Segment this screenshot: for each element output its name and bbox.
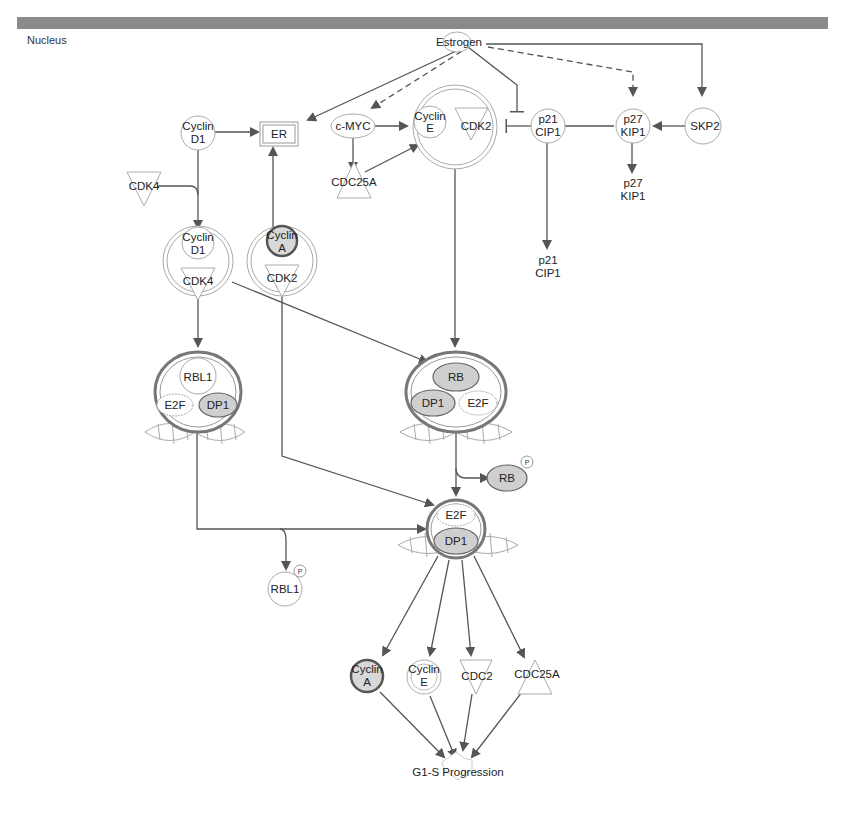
node-skp2[interactable]: SKP2	[685, 108, 721, 144]
node-cyclin-a-cdk2-complex[interactable]: Cyclin A CDK2	[247, 226, 317, 297]
svg-text:E2F: E2F	[445, 509, 466, 521]
svg-text:RBL1: RBL1	[184, 371, 213, 383]
edge-cyclinE-g1s	[430, 696, 455, 757]
svg-text:Cyclin: Cyclin	[408, 663, 439, 675]
node-c-myc[interactable]: c-MYC	[331, 114, 375, 138]
pathway-diagram: Estrogen Cyclin D1 ER c-MYC Cyclin E CDK…	[0, 0, 841, 816]
node-rb-dp1-e2f-complex[interactable]: RB DP1 E2F	[400, 352, 512, 444]
edge-to-rbl1p	[280, 529, 286, 569]
edge-cdc25a-g1s	[472, 692, 522, 757]
svg-text:p21: p21	[538, 254, 557, 266]
svg-text:RB: RB	[499, 472, 515, 484]
svg-text:DP1: DP1	[422, 397, 444, 409]
svg-text:Estrogen: Estrogen	[436, 36, 482, 48]
node-cdk4[interactable]: CDK4	[127, 172, 161, 206]
edge-e2f-cdc25a	[474, 556, 524, 657]
node-g1s-progression[interactable]: G1-S Progression	[412, 752, 503, 780]
svg-text:Cyclin: Cyclin	[182, 120, 213, 132]
svg-text:DP1: DP1	[445, 535, 467, 547]
svg-text:G1-S Progression: G1-S Progression	[412, 766, 503, 778]
edge-cd1cdk4-rbcomplex	[232, 282, 427, 362]
node-rb-phospho[interactable]: RB P	[487, 456, 533, 491]
svg-text:CIP1: CIP1	[535, 126, 561, 138]
edge-rbl1complex-e2fdp1	[197, 432, 425, 529]
node-cyclin-e-cdk2-complex[interactable]: Cyclin E CDK2	[413, 85, 497, 169]
svg-text:p27: p27	[623, 113, 642, 125]
node-p21-cip1-b[interactable]: p21 CIP1	[535, 254, 561, 279]
edge-cdk4-complex	[157, 186, 198, 195]
svg-text:p21: p21	[538, 113, 557, 125]
node-rbl1-phospho[interactable]: RBL1 P	[268, 565, 306, 606]
svg-text:SKP2: SKP2	[690, 120, 719, 132]
node-cdc25a[interactable]: CDC25A	[331, 162, 377, 198]
edge-cdc2-g1s	[463, 694, 472, 750]
cyclin-d1-line2: D1	[191, 244, 206, 256]
svg-text:KIP1: KIP1	[621, 190, 646, 202]
svg-text:CDK2: CDK2	[461, 120, 492, 132]
svg-text:ER: ER	[271, 128, 287, 140]
edge-e2f-cyclinA	[383, 556, 438, 655]
svg-text:Cyclin: Cyclin	[351, 663, 382, 675]
svg-text:E: E	[426, 122, 434, 134]
node-p21-cip1[interactable]: p21 CIP1	[531, 109, 565, 143]
node-estrogen[interactable]: Estrogen	[436, 32, 482, 52]
node-cdc25a-b[interactable]: CDC25A	[514, 660, 560, 694]
node-er[interactable]: ER	[260, 122, 298, 146]
svg-text:A: A	[278, 242, 286, 254]
phospho-badge: P	[525, 459, 530, 466]
node-cyclin-d1[interactable]: Cyclin D1	[181, 116, 215, 150]
node-cdc2[interactable]: CDC2	[460, 660, 493, 694]
svg-text:RBL1: RBL1	[271, 583, 300, 595]
node-p27-kip1-b[interactable]: p27 KIP1	[621, 177, 646, 202]
edge-cdc25a-cyclinE	[365, 145, 418, 172]
svg-text:CDC2: CDC2	[461, 670, 492, 682]
svg-text:E: E	[420, 676, 428, 688]
svg-text:DP1: DP1	[207, 399, 229, 411]
svg-text:CDK4: CDK4	[129, 180, 160, 192]
svg-text:CDK2: CDK2	[267, 272, 298, 284]
svg-text:Cyclin: Cyclin	[266, 229, 297, 241]
phospho-badge: P	[298, 568, 303, 575]
svg-text:E2F: E2F	[467, 397, 488, 409]
svg-text:RB: RB	[448, 371, 464, 383]
node-rbl1-e2f-dp1-complex[interactable]: RBL1 E2F DP1	[145, 352, 245, 444]
node-p27-kip1[interactable]: p27 KIP1	[616, 109, 650, 143]
svg-text:D1: D1	[191, 133, 206, 145]
edge-cyclinA-g1s	[380, 692, 444, 757]
node-cyclin-e-b[interactable]: Cyclin E	[407, 660, 441, 694]
svg-text:CDC25A: CDC25A	[331, 176, 377, 188]
svg-text:c-MYC: c-MYC	[335, 120, 370, 132]
svg-text:KIP1: KIP1	[621, 126, 646, 138]
svg-text:p27: p27	[623, 177, 642, 189]
svg-text:A: A	[363, 676, 371, 688]
node-cyclin-a-b[interactable]: Cyclin A	[351, 660, 383, 692]
node-cyclin-d1-cdk4-complex[interactable]: Cyclin CDK4 D1 CDK4	[163, 226, 233, 300]
edge-to-rbp	[456, 468, 488, 478]
edge-estrogen-p27	[488, 47, 633, 95]
svg-text:CDK4: CDK4	[183, 275, 214, 287]
edge-e2f-cdc2	[462, 560, 471, 655]
edge-e2f-cyclinE	[430, 560, 449, 655]
svg-text:Cyclin: Cyclin	[182, 231, 213, 243]
svg-text:CDC25A: CDC25A	[514, 668, 560, 680]
svg-text:E2F: E2F	[164, 399, 185, 411]
svg-text:Cyclin: Cyclin	[414, 110, 445, 122]
svg-text:CIP1: CIP1	[535, 267, 561, 279]
